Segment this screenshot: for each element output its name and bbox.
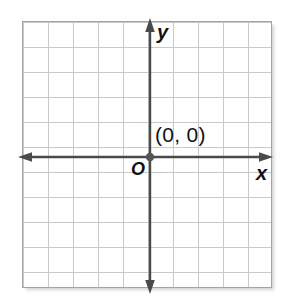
x-axis-label: x (256, 163, 267, 183)
grid-lines (23, 22, 271, 287)
origin-coordinate-label: (0, 0) (155, 124, 206, 145)
y-axis-label: y (157, 22, 168, 42)
origin-label: O (131, 160, 145, 178)
coordinate-plane-figure: y x O (0, 0) (0, 0, 289, 308)
grid-panel (22, 21, 272, 288)
